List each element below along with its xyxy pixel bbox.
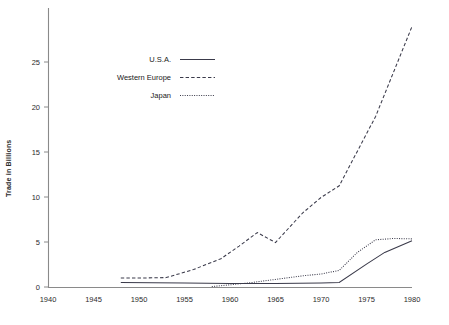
series-line-usa [121,241,412,284]
y-tick-label-15: 15 [32,148,40,157]
y-tick-label-0: 0 [36,283,40,292]
y-tick-label-25: 25 [32,58,40,67]
x-tick-label-1965: 1965 [267,295,284,304]
plot-area: 25 20 15 10 5 0 1940 1945 1950 1955 1960… [0,0,449,325]
x-tick-label-1950: 1950 [131,295,148,304]
legend-label-japan: Japan [151,91,171,100]
x-tick-label-1955: 1955 [176,295,193,304]
series-line-western-europe [121,27,412,279]
y-tick-label-10: 10 [32,193,40,202]
x-tick-label-1980: 1980 [404,295,421,304]
x-axis-group: 1940 1945 1950 1955 1960 1965 1970 1975 … [40,288,421,305]
x-tick-label-1940: 1940 [40,295,57,304]
legend-label-western-europe: Western Europe [117,73,171,82]
legend: U.S.A. Western Europe Japan [117,55,215,100]
x-tick-label-1945: 1945 [85,295,102,304]
y-tick-label-20: 20 [32,103,40,112]
y-tick-label-5: 5 [36,238,40,247]
series-lines [121,27,412,287]
x-tick-label-1975: 1975 [358,295,375,304]
series-line-japan [212,238,412,286]
x-tick-label-1970: 1970 [313,295,330,304]
y-tick-marks [44,62,49,287]
trade-line-chart: Trade in Billions 25 20 15 10 5 0 1940 1… [0,0,449,325]
x-tick-label-1960: 1960 [222,295,239,304]
y-axis-group: 25 20 15 10 5 0 [32,8,49,292]
legend-label-usa: U.S.A. [149,55,171,64]
